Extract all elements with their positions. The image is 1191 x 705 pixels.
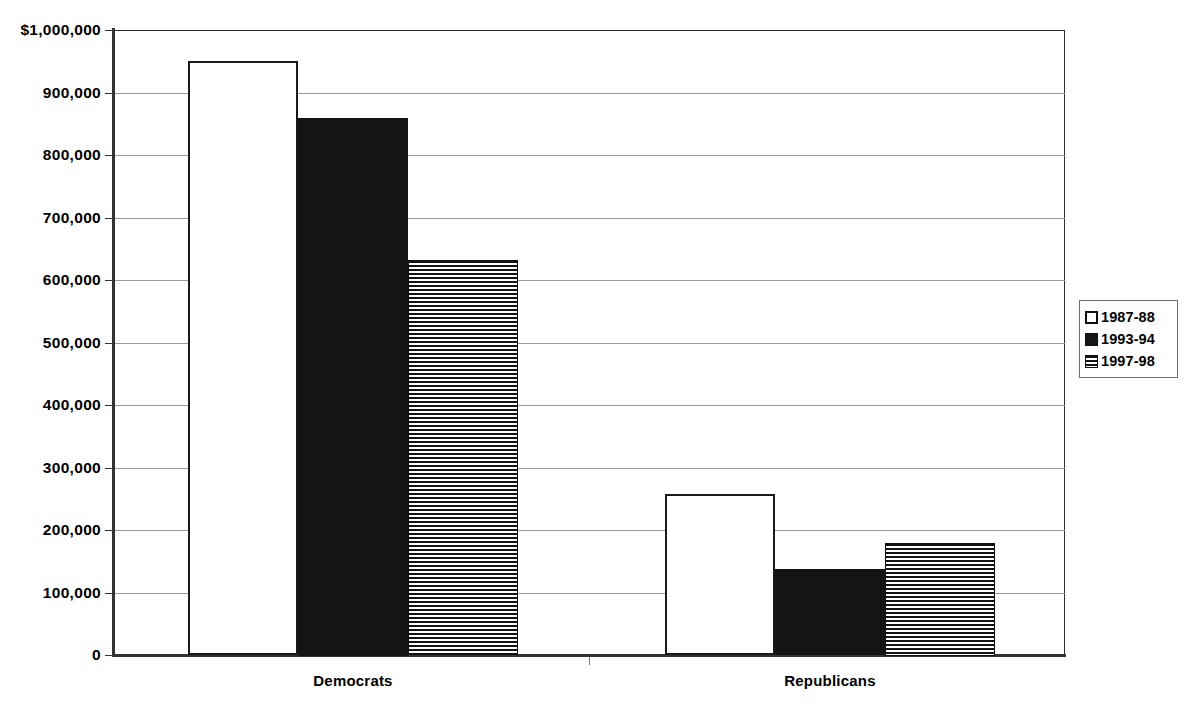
- bar-democrats-1993-94: [298, 118, 408, 656]
- legend-item-1987-88: 1987-88: [1085, 306, 1173, 328]
- legend-label: 1993-94: [1101, 331, 1155, 347]
- y-axis-tick-mark: [105, 405, 112, 406]
- y-axis-tick-mark: [105, 280, 112, 281]
- y-axis-tick-label: 600,000: [1, 272, 101, 288]
- legend: 1987-881993-941997-98: [1079, 300, 1178, 378]
- y-axis-tick-mark: [105, 468, 112, 469]
- y-axis-tick-mark: [105, 218, 112, 219]
- bar-republicans-1993-94: [775, 569, 885, 655]
- y-axis-tick-label: 200,000: [1, 522, 101, 538]
- bar-chart: 0100,000200,000300,000400,000500,000600,…: [0, 0, 1191, 705]
- y-axis-tick-mark: [105, 30, 112, 31]
- bar-democrats-1997-98: [408, 260, 518, 655]
- y-axis-tick-mark: [105, 530, 112, 531]
- legend-swatch-icon-stripe: [1085, 355, 1098, 368]
- legend-swatch-icon-open: [1085, 311, 1098, 324]
- bar-democrats-1987-88: [188, 61, 298, 655]
- legend-label: 1987-88: [1101, 309, 1155, 325]
- y-axis-tick-label: 900,000: [1, 85, 101, 101]
- y-axis-tick-mark: [105, 343, 112, 344]
- bar-republicans-1987-88: [665, 494, 775, 655]
- category-separator-tick: [589, 657, 590, 665]
- y-axis-tick-label: 300,000: [1, 460, 101, 476]
- y-axis-tick-label: 100,000: [1, 585, 101, 601]
- bar-republicans-1997-98: [885, 543, 995, 656]
- y-axis-tick-mark: [105, 593, 112, 594]
- x-axis-label-republicans: Republicans: [720, 672, 940, 689]
- legend-label: 1997-98: [1101, 353, 1155, 369]
- y-axis-tick-label: $1,000,000: [1, 22, 101, 38]
- legend-item-1997-98: 1997-98: [1085, 350, 1173, 372]
- y-axis-line: [112, 28, 115, 657]
- legend-item-1993-94: 1993-94: [1085, 328, 1173, 350]
- y-axis-tick-label: 500,000: [1, 335, 101, 351]
- y-axis-tick-mark: [105, 155, 112, 156]
- y-axis-tick-label: 700,000: [1, 210, 101, 226]
- x-axis-label-democrats: Democrats: [243, 672, 463, 689]
- y-axis-tick-label: 400,000: [1, 397, 101, 413]
- legend-swatch-icon-solid: [1085, 333, 1098, 346]
- y-axis-tick-mark: [105, 93, 112, 94]
- y-axis-tick-mark: [105, 655, 112, 656]
- y-axis-tick-label: 800,000: [1, 147, 101, 163]
- y-axis-tick-label: 0: [1, 647, 101, 663]
